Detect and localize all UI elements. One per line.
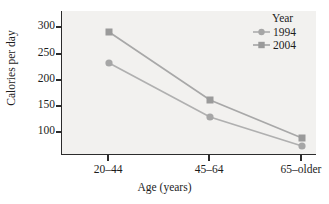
- data-point-2004-20-44: [106, 29, 113, 36]
- legend-label-1994: 1994: [271, 26, 296, 38]
- x-tick-label-45-64: 45–64: [195, 163, 224, 175]
- y-tick-label-150: 150: [38, 99, 55, 111]
- square-marker-icon: [252, 39, 271, 51]
- data-point-1994-20-44: [105, 59, 112, 66]
- x-axis-title: Age (years): [0, 181, 329, 193]
- circle-marker-icon: [252, 26, 271, 38]
- series-line-1994: [109, 63, 302, 146]
- y-tick-label-200: 200: [38, 73, 55, 85]
- x-tick-mark-65-older: [300, 155, 302, 161]
- y-tick-label-250: 250: [38, 47, 55, 59]
- x-tick-label-20-44: 20–44: [94, 163, 123, 175]
- x-tick-mark-20-44: [107, 155, 109, 161]
- legend-label-2004: 2004: [271, 39, 296, 51]
- legend: Year 1994 2004: [252, 12, 322, 51]
- data-point-2004-65-older: [299, 135, 306, 142]
- chart-figure: Calories per day 300 250 200 150 100: [0, 0, 329, 204]
- y-axis-tick-labels: 300 250 200 150 100: [0, 0, 55, 204]
- legend-item-1994: 1994: [252, 25, 322, 38]
- data-point-1994-65-older: [298, 142, 305, 149]
- y-tick-label-100: 100: [38, 125, 55, 137]
- data-point-2004-45-64: [207, 97, 214, 104]
- legend-title: Year: [252, 12, 322, 24]
- data-point-1994-45-64: [206, 113, 213, 120]
- x-tick-mark-45-64: [208, 155, 210, 161]
- y-tick-label-300: 300: [38, 20, 55, 32]
- x-tick-label-65-older: 65–older: [281, 163, 322, 175]
- legend-item-2004: 2004: [252, 38, 322, 51]
